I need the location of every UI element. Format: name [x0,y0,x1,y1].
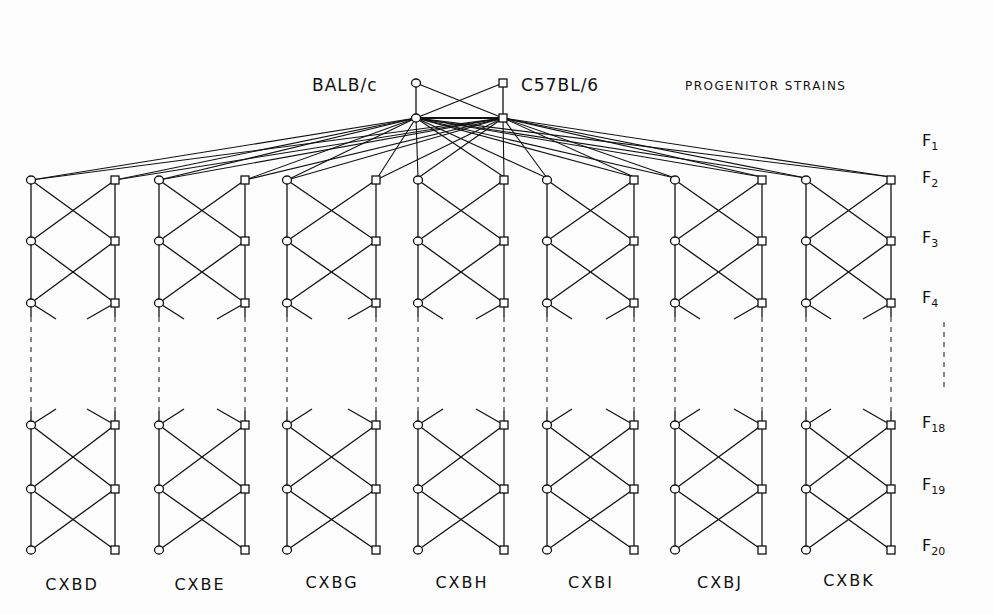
male-node-icon [241,546,249,554]
female-node-icon [155,237,164,245]
f1-male-node-icon [499,114,507,122]
male-node-icon [241,176,249,184]
male-node-icon [887,421,895,429]
female-node-icon [414,176,423,184]
male-node-icon [241,485,249,493]
male-node-icon [630,421,638,429]
male-node-icon [500,485,508,493]
generation-label-f1: F1 [922,131,938,153]
generation-label-f18: F18 [922,413,945,435]
female-node-icon [283,237,292,245]
female-node-icon [27,176,36,184]
female-node-icon [414,421,423,429]
male-node-icon [372,299,380,307]
female-node-icon [671,237,680,245]
male-node-icon [372,176,380,184]
female-node-icon [543,299,552,307]
male-node-icon [111,237,119,245]
strain-label-cxbd: CXBD [27,575,117,594]
female-node-icon [414,299,423,307]
male-node-icon [887,546,895,554]
female-node-icon [802,485,811,493]
progenitor-c57bl6-node-icon [499,79,507,87]
generation-label-f3: F3 [922,228,938,250]
female-node-icon [27,299,36,307]
strain-label-cxbi: CXBI [546,573,636,592]
male-node-icon [500,299,508,307]
male-node-icon [630,546,638,554]
strain-label-cxbj: CXBJ [675,573,765,592]
female-node-icon [802,421,811,429]
female-node-icon [543,421,552,429]
male-node-icon [887,299,895,307]
female-node-icon [283,546,292,554]
female-node-icon [283,485,292,493]
female-node-icon [543,485,552,493]
male-node-icon [630,237,638,245]
male-node-icon [372,546,380,554]
male-node-icon [111,421,119,429]
female-node-icon [671,299,680,307]
female-node-icon [27,546,36,554]
male-node-icon [630,485,638,493]
female-node-icon [802,299,811,307]
female-node-icon [283,421,292,429]
female-node-icon [671,485,680,493]
strain-label-cxbh: CXBH [417,573,507,592]
male-node-icon [500,237,508,245]
male-node-icon [630,299,638,307]
female-node-icon [414,546,423,554]
progenitor-strains-title: PROGENITOR STRAINS [685,79,846,93]
female-node-icon [802,176,811,184]
male-node-icon [758,176,766,184]
male-node-icon [758,237,766,245]
generation-label-f20: F20 [922,536,945,558]
generation-label-f19: F19 [922,475,945,497]
male-node-icon [111,176,119,184]
male-node-icon [241,299,249,307]
male-node-icon [372,421,380,429]
male-node-icon [111,299,119,307]
female-node-icon [155,299,164,307]
female-node-icon [802,237,811,245]
female-node-icon [155,485,164,493]
female-node-icon [802,546,811,554]
female-node-icon [543,176,552,184]
progenitor-left-label: BALB/c [312,75,378,95]
female-node-icon [543,546,552,554]
female-node-icon [414,485,423,493]
female-node-icon [27,237,36,245]
strain-label-cxbk: CXBK [804,571,894,590]
male-node-icon [887,485,895,493]
female-node-icon [155,421,164,429]
female-node-icon [671,176,680,184]
strain-label-cxbg: CXBG [287,573,377,592]
male-node-icon [111,485,119,493]
female-node-icon [671,421,680,429]
male-node-icon [372,485,380,493]
male-node-icon [500,176,508,184]
female-node-icon [155,176,164,184]
female-node-icon [27,421,36,429]
male-node-icon [111,546,119,554]
progenitor-right-label: C57BL/6 [521,75,599,95]
generation-label-f4: F4 [922,288,938,310]
generation-label-f2: F2 [922,168,938,190]
female-node-icon [283,176,292,184]
male-node-icon [758,421,766,429]
female-node-icon [155,546,164,554]
male-node-icon [372,237,380,245]
male-node-icon [887,176,895,184]
male-node-icon [630,176,638,184]
male-node-icon [887,237,895,245]
female-node-icon [671,546,680,554]
male-node-icon [758,299,766,307]
male-node-icon [500,421,508,429]
female-node-icon [283,299,292,307]
strain-label-cxbe: CXBE [155,575,245,594]
male-node-icon [500,546,508,554]
female-node-icon [414,237,423,245]
male-node-icon [241,237,249,245]
f1-female-node-icon [412,114,421,122]
female-node-icon [543,237,552,245]
